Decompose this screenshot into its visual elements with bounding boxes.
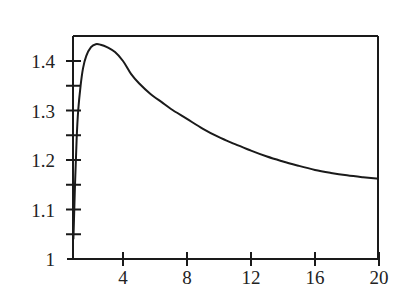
x-axis-labels: 48121620	[118, 267, 388, 288]
x-tick-label: 8	[182, 267, 192, 288]
data-curve	[73, 44, 379, 239]
x-tick-label: 20	[370, 267, 389, 288]
y-tick-label: 1.2	[31, 150, 55, 171]
x-tick-label: 16	[306, 267, 325, 288]
plot-frame	[67, 36, 378, 259]
y-axis-labels: 11.11.21.31.4	[31, 51, 55, 270]
y-tick-label: 1	[46, 249, 56, 270]
y-tick-label: 1.1	[31, 200, 55, 221]
y-tick-label: 1.4	[31, 51, 55, 72]
x-tick-label: 4	[118, 267, 128, 288]
y-tick-label: 1.3	[31, 101, 55, 122]
x-tick-label: 12	[242, 267, 261, 288]
line-chart: 11.11.21.31.4 48121620	[0, 0, 407, 305]
